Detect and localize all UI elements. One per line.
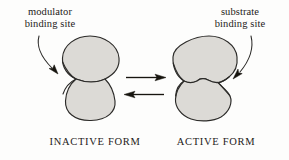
active-upper-lobe <box>173 36 237 83</box>
substrate-label-line1: substrate <box>198 6 282 18</box>
inactive-form-caption: INACTIVE FORM <box>35 136 155 148</box>
inactive-lower-lobe <box>65 79 115 121</box>
allosteric-enzyme-diagram: modulator binding site substrate binding… <box>0 0 289 160</box>
active-lower-lobe <box>175 79 231 121</box>
equilibrium-arrows <box>124 74 166 98</box>
modulator-binding-site-label: modulator binding site <box>8 6 92 31</box>
active-form-caption: ACTIVE FORM <box>160 136 272 148</box>
inactive-form-shape <box>62 36 119 121</box>
substrate-label-line2: binding site <box>198 18 282 30</box>
modulator-leader-line <box>38 36 58 74</box>
modulator-label-line1: modulator <box>8 6 92 18</box>
substrate-binding-site-label: substrate binding site <box>198 6 282 31</box>
active-form-shape <box>173 36 237 121</box>
reverse-arrow-left <box>124 91 164 98</box>
modulator-label-line2: binding site <box>8 18 92 30</box>
forward-arrow-right <box>126 74 166 81</box>
